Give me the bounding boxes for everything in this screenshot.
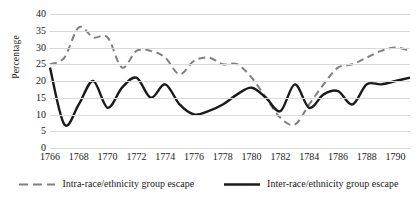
y-axis-title: Percentage [11,7,21,107]
plot-area [50,14,410,148]
gridline [50,148,410,149]
gridline [50,131,410,132]
legend-item-inter: Inter-race/ethnicity group escape [224,178,398,190]
gridline [50,98,410,99]
legend-item-intra: Intra-race/ethnicity group escape [19,178,194,190]
gridline [50,31,410,32]
y-axis-tick-label: 20 [24,76,46,86]
gridline [50,64,410,65]
y-axis-tick-label: 30 [24,43,46,53]
solid-line-swatch [224,180,260,189]
y-axis-tick-label: 5 [24,126,46,136]
dashed-line-swatch [19,180,55,189]
y-axis-tick-label: 10 [24,110,46,120]
y-axis-tick-label: 35 [24,26,46,36]
legend-label-inter: Inter-race/ethnicity group escape [267,178,398,190]
y-axis-tick-label: 15 [24,93,46,103]
legend-label-intra: Intra-race/ethnicity group escape [62,178,194,190]
y-axis-tick-label: 25 [24,59,46,69]
gridlines [50,14,410,148]
gridline [50,115,410,116]
chart-legend: Intra-race/ethnicity group escape Inter-… [0,174,418,194]
gridline [50,48,410,49]
y-axis-tick-label: 40 [24,9,46,19]
gridline [50,14,410,15]
x-axis-tick-labels: 1766176817701772177417761778178017821784… [50,151,410,167]
line-chart: Percentage 0510152025303540 176617681770… [0,0,418,198]
y-axis-tick-labels: 0510152025303540 [22,0,46,160]
x-axis-tick-label: 1790 [376,151,416,163]
gridline [50,81,410,82]
